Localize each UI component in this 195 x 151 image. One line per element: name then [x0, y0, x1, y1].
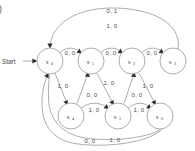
- state-node-s4[interactable]: [58, 103, 84, 129]
- edge-label-s1-s2: 0, 0: [106, 50, 117, 56]
- state-node-s2[interactable]: [119, 48, 145, 74]
- edge-label-s2-s3: 0, 0: [147, 50, 158, 56]
- edge-label-s6-s0-b: 1, 0: [110, 137, 121, 143]
- edge-s4-to-s1: [77, 74, 88, 104]
- edge-label-s2-s6: 1, 0: [143, 83, 154, 89]
- edge-s5-to-s2: [124, 74, 134, 104]
- edge-label-s0-s1: 0, 0: [65, 50, 76, 56]
- edge-label-s5-s6: 1, 0: [134, 107, 145, 113]
- fsm-figure: s 0 s 1 s 2 s 3 s 4 s 5 s 6 0, 1 1, 0 0,…: [0, 0, 195, 151]
- edge-label-s6-s0-a: 0, 0: [85, 138, 96, 144]
- state-label-s5-sub: 5: [119, 116, 121, 121]
- state-node-s3[interactable]: [160, 48, 186, 74]
- state-label-s1-sub: 1: [92, 61, 94, 66]
- state-node-s1[interactable]: [78, 48, 104, 74]
- edge-label-s3-s0-top: 0, 1: [107, 8, 118, 14]
- state-label-s3-sub: 3: [174, 61, 176, 66]
- edge-label-s4-s1: 0, 0: [87, 92, 98, 98]
- edge-label-s1-s5: 1, 0: [104, 80, 115, 86]
- arrowhead-start: [32, 59, 37, 64]
- edge-label-s0-s4: 1, 0: [58, 83, 69, 89]
- state-label-s0-sub: 0: [51, 61, 53, 66]
- edge-label-s3-s0-bottom: 1, 0: [107, 23, 118, 29]
- state-node-s0[interactable]: [37, 48, 63, 74]
- state-node-s5[interactable]: [105, 103, 131, 129]
- state-node-s6[interactable]: [147, 103, 173, 129]
- fsm-diagram-canvas: s 0 s 1 s 2 s 3 s 4 s 5 s 6 0, 1 1, 0 0,…: [0, 0, 195, 151]
- edge-label-s4-s5: 1, 0: [89, 107, 100, 113]
- edge-label-s5-s2: 0, 0: [132, 92, 143, 98]
- figure-part-label: ): [0, 4, 2, 14]
- start-label: Start: [2, 58, 16, 65]
- state-label-s2-sub: 2: [133, 61, 135, 66]
- edge-s1-to-s5: [97, 73, 113, 103]
